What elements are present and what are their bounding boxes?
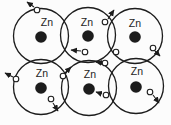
electron [82,49,88,55]
atom-label: Zn [36,67,48,79]
electron [102,60,108,66]
electron-motion-arrow [71,50,81,51]
electron-motion-arrow [96,92,102,94]
electron [13,76,19,82]
atom-label: Zn [131,65,143,77]
atom-label: Zn [84,68,96,80]
atom-label: Zn [41,16,53,28]
electron [60,73,66,79]
atom-label: Zn [129,17,141,29]
electron [103,92,109,98]
electron-motion-arrow [5,73,13,77]
electron [102,19,108,25]
atom-label: Zn [81,16,93,28]
nucleus-dot [129,31,141,43]
electron [48,96,54,102]
electron-motion-arrow [65,67,71,73]
electron-motion-arrow [27,2,34,7]
atoms-layer: ZnZnZnZnZnZn [14,8,164,116]
electron [147,89,153,95]
nucleus-dot [35,31,47,43]
nucleus-dot [130,81,142,93]
electron-motion-arrow [153,95,159,103]
electron [34,7,40,13]
electron-motion-arrow [96,62,102,63]
electron [150,45,156,51]
metallic-bonding-figure: ZnZnZnZnZnZn [0,0,171,125]
nucleus-dot [83,83,95,95]
nucleus-dot [82,30,94,42]
metallic-bonding-diagram: ZnZnZnZnZnZn [0,0,171,125]
electron [113,49,119,55]
electron-motion-arrow [108,10,114,19]
nucleus-dot [35,82,47,94]
